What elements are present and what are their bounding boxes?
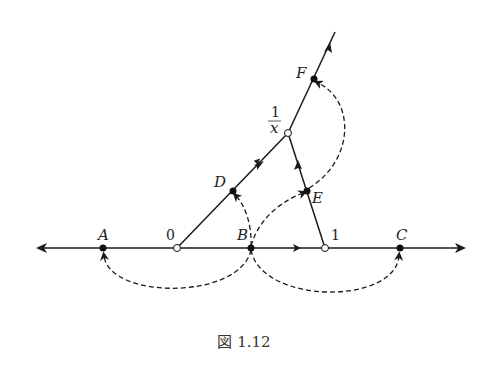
- point-E: [304, 188, 311, 195]
- arc-B-to-C: [251, 250, 399, 292]
- oblique-ray: [0, 0, 335, 248]
- points: [100, 76, 404, 252]
- point-one: [322, 245, 329, 252]
- point-C: [397, 245, 404, 252]
- point-F: [311, 76, 318, 83]
- arc-E-to-F: [309, 83, 345, 188]
- point-B: [248, 245, 255, 252]
- arc-B-to-A: [104, 250, 251, 288]
- label-D: D: [213, 173, 226, 191]
- point-A: [100, 245, 107, 252]
- point-zero: [174, 245, 181, 252]
- reciprocal-denominator: x: [270, 119, 279, 137]
- dashed-arcs: [104, 83, 399, 292]
- figure-1-12: A 0 B 1 C D E F 1 x 図 1.12: [0, 0, 489, 365]
- label-C: C: [396, 226, 408, 244]
- label-F: F: [295, 64, 307, 82]
- point-D: [230, 188, 237, 195]
- arc-B-to-E: [251, 193, 303, 246]
- label-one: 1: [331, 227, 340, 243]
- direction-arrow-icon: [294, 160, 302, 170]
- direction-arrow-icon: [324, 42, 332, 53]
- geometric-construction-diagram: A 0 B 1 C D E F 1 x 図 1.12: [0, 0, 489, 365]
- label-A: A: [96, 226, 109, 244]
- label-zero: 0: [166, 227, 175, 243]
- figure-caption: 図 1.12: [217, 333, 270, 351]
- point-reciprocal: [285, 130, 292, 137]
- label-B: B: [236, 226, 248, 244]
- label-E: E: [311, 189, 323, 207]
- label-reciprocal-x: 1 x: [268, 104, 281, 137]
- reciprocal-numerator: 1: [271, 104, 280, 120]
